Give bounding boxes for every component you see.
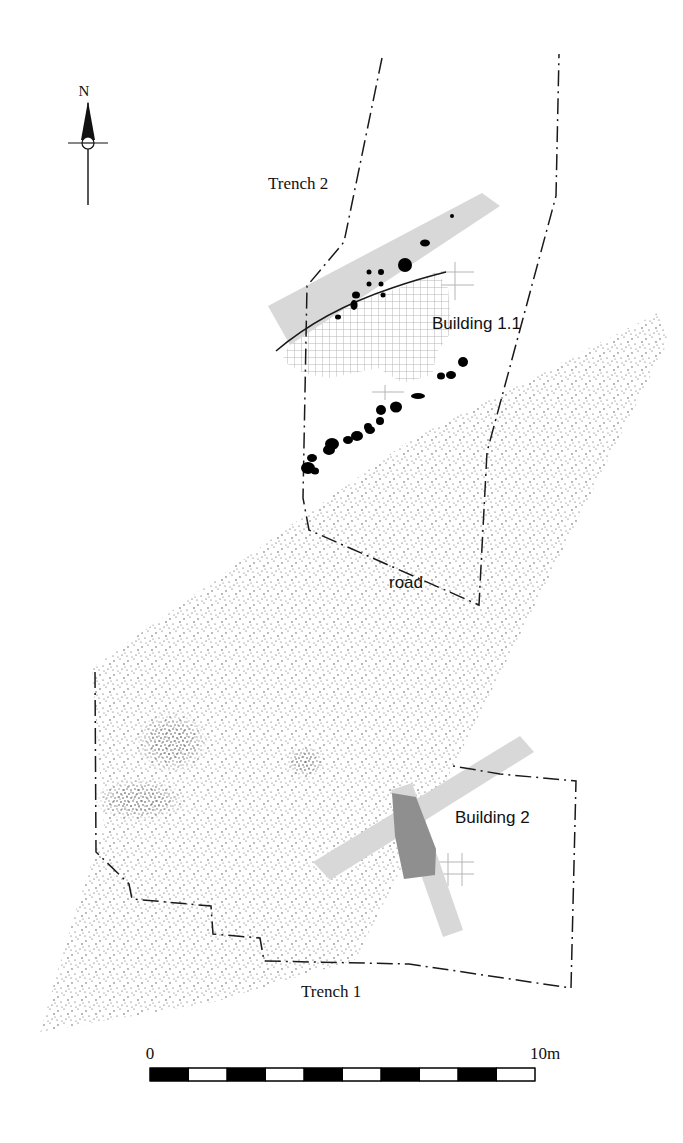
building-2-label: Building 2: [455, 808, 530, 827]
posthole: [367, 270, 372, 275]
scale-bar-segment: [150, 1068, 189, 1081]
posthole: [351, 300, 358, 310]
scale-bar-segment: [420, 1068, 459, 1081]
posthole: [307, 454, 317, 462]
dense-patch-north: [134, 710, 210, 774]
posthole: [378, 269, 384, 275]
scale-bar-start-label: 0: [146, 1044, 155, 1063]
posthole: [437, 373, 445, 380]
dense-patch-east: [285, 745, 325, 779]
scale-bar-segment: [343, 1068, 382, 1081]
trench-2-label: Trench 2: [268, 174, 328, 193]
dense-patch-south: [92, 778, 188, 822]
posthole: [379, 282, 384, 287]
scale-bar-segments: [150, 1068, 535, 1081]
posthole: [446, 371, 456, 379]
posthole: [335, 315, 341, 320]
scale-bar-end-label: 10m: [530, 1044, 560, 1063]
scale-bar-segment: [304, 1068, 343, 1081]
posthole: [420, 240, 430, 247]
posthole: [323, 445, 335, 455]
scale-bar-segment: [497, 1068, 536, 1081]
posthole: [390, 402, 402, 413]
posthole: [458, 357, 468, 367]
scale-bar-segment: [189, 1068, 228, 1081]
site-plan-figure: N Trench 2Building 1.1roadBuilding 2Tren…: [0, 0, 683, 1143]
posthole: [365, 426, 375, 434]
north-arrow: N: [68, 83, 108, 205]
posthole: [381, 293, 386, 298]
road-area-group: [40, 312, 668, 1032]
posthole: [411, 393, 425, 399]
north-arrow-head: [81, 101, 95, 140]
scale-bar-segment: [458, 1068, 497, 1081]
site-plan-canvas: N Trench 2Building 1.1roadBuilding 2Tren…: [0, 0, 683, 1143]
posthole: [367, 282, 372, 287]
posthole: [343, 436, 353, 444]
north-arrow-label: N: [79, 83, 90, 99]
scale-bar: 0 10m: [146, 1044, 560, 1081]
trench-1-label: Trench 1: [301, 982, 361, 1001]
road-stipple-area: [40, 312, 668, 1032]
posthole: [398, 258, 412, 272]
scale-bar-segment: [227, 1068, 266, 1081]
posthole: [376, 405, 386, 415]
building-1-1-label: Building 1.1: [432, 314, 521, 333]
posthole: [352, 292, 360, 299]
posthole: [376, 417, 384, 425]
scale-bar-segment: [381, 1068, 420, 1081]
scale-bar-segment: [266, 1068, 305, 1081]
posthole: [450, 214, 454, 218]
road-label: road: [389, 573, 423, 592]
posthole: [311, 468, 319, 475]
